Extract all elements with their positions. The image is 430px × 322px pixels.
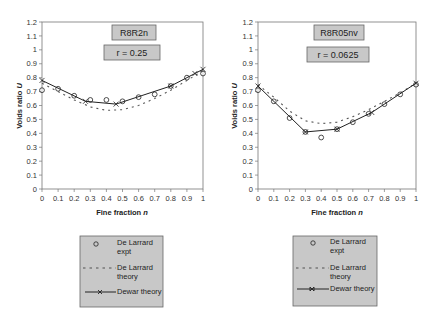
x-tick-label: 0 — [40, 194, 44, 203]
x-tick-label: 0.8 — [379, 194, 389, 203]
y-tick-label: 0.6 — [27, 101, 37, 110]
x-tick-label: 0.1 — [269, 194, 279, 203]
y-tick-label: 0.3 — [243, 143, 253, 152]
circle-marker-icon — [256, 88, 261, 93]
x-tick-label: 0.4 — [316, 194, 326, 203]
y-tick-label: 0.5 — [27, 115, 37, 124]
y-tick-label: 1.2 — [243, 18, 253, 27]
series-de-larrard-theory — [42, 71, 203, 111]
y-tick-label: 0.7 — [27, 87, 37, 96]
y-tick-label: 0.3 — [27, 143, 37, 152]
y-tick-label: 1.1 — [27, 32, 37, 41]
x-tick-label: 0 — [256, 194, 260, 203]
x-tick-label: 0.8 — [166, 194, 176, 203]
svg-text:De Larrard: De Larrard — [330, 263, 366, 272]
y-tick-label: 1 — [249, 45, 253, 54]
svg-text:theory: theory — [330, 272, 351, 281]
y-tick-label: 0.5 — [243, 115, 253, 124]
svg-text:Dewar theory: Dewar theory — [117, 287, 162, 296]
y-tick-label: 0.4 — [27, 129, 37, 138]
svg-text:theory: theory — [117, 272, 138, 281]
y-tick-label: 0.1 — [27, 171, 37, 180]
y-tick-label: 0.2 — [243, 157, 253, 166]
y-tick-label: 0.2 — [27, 157, 37, 166]
y-tick-label: 0.8 — [27, 73, 37, 82]
x-tick-label: 0.5 — [117, 194, 127, 203]
x-tick-label: 0.9 — [395, 194, 405, 203]
x-axis-label: Fine fraction n — [311, 208, 363, 217]
svg-text:expt: expt — [330, 246, 345, 255]
circle-marker-icon — [40, 88, 45, 93]
chart-subtitle: r = 0.0625 — [318, 50, 359, 60]
circle-marker-icon — [152, 92, 157, 97]
y-tick-label: 1.1 — [243, 32, 253, 41]
x-marker-icon — [192, 71, 197, 76]
x-tick-label: 0.5 — [332, 194, 342, 203]
x-tick-label: 0.7 — [149, 194, 159, 203]
y-tick-label: 0.9 — [27, 59, 37, 68]
x-tick-label: 0.1 — [53, 194, 63, 203]
y-tick-label: 0.8 — [243, 73, 253, 82]
circle-marker-icon — [104, 98, 109, 103]
y-axis-label: Voids ratio U — [15, 83, 24, 129]
x-tick-label: 0.4 — [101, 194, 111, 203]
y-tick-label: 0 — [249, 185, 253, 194]
chart-left: 00.10.20.30.40.50.60.70.80.911.11.200.10… — [15, 18, 206, 307]
series-de-larrard-theory — [258, 83, 416, 123]
svg-text:De Larrard: De Larrard — [117, 263, 153, 272]
circle-marker-icon — [319, 135, 324, 140]
svg-text:De Larrard: De Larrard — [330, 237, 366, 246]
figure: 00.10.20.30.40.50.60.70.80.911.11.200.10… — [0, 0, 430, 322]
x-tick-label: 0.3 — [300, 194, 310, 203]
chart-right: 00.10.20.30.40.50.60.70.80.911.11.200.10… — [230, 18, 419, 306]
x-tick-label: 0.7 — [363, 194, 373, 203]
y-tick-label: 0.9 — [243, 59, 253, 68]
y-tick-label: 0.7 — [243, 87, 253, 96]
chart-title: R8R05nv — [320, 28, 358, 38]
y-tick-label: 0.6 — [243, 101, 253, 110]
x-tick-label: 0.6 — [348, 194, 358, 203]
x-tick-label: 0.2 — [284, 194, 294, 203]
y-tick-label: 0.1 — [243, 171, 253, 180]
plot-area: 00.10.20.30.40.50.60.70.80.911.11.200.10… — [243, 18, 419, 203]
chart-subtitle: r = 0.25 — [117, 48, 148, 58]
x-tick-label: 1 — [414, 194, 418, 203]
x-axis-label: Fine fraction n — [96, 208, 148, 217]
y-tick-label: 0.4 — [243, 129, 253, 138]
x-tick-label: 0.3 — [85, 194, 95, 203]
chart-title: R8R2n — [120, 28, 148, 38]
y-tick-label: 1.2 — [27, 18, 37, 27]
x-tick-label: 1 — [201, 194, 205, 203]
legend: De Larrard expt De Larrard theory Dewar … — [293, 236, 377, 306]
series-dewar-theory — [258, 83, 416, 132]
y-tick-label: 0 — [33, 185, 37, 194]
svg-text:Dewar theory: Dewar theory — [330, 284, 375, 293]
legend: De Larrard expt De Larrard theory Dewar … — [80, 236, 163, 307]
y-tick-label: 1 — [33, 45, 37, 54]
x-tick-label: 0.9 — [182, 194, 192, 203]
y-axis-label: Voids ratio U — [230, 83, 239, 129]
x-tick-label: 0.2 — [69, 194, 79, 203]
x-tick-label: 0.6 — [133, 194, 143, 203]
svg-text:expt: expt — [117, 247, 132, 256]
svg-text:De Larrard: De Larrard — [117, 238, 153, 247]
